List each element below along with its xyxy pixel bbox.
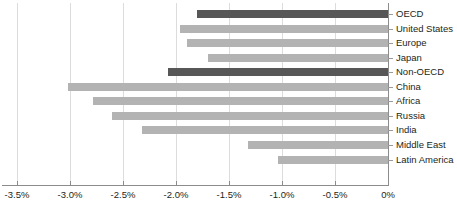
x-axis-tick [176,181,177,186]
x-axis-label: -2.5% [111,189,136,200]
x-axis-tick [70,181,71,186]
x-axis-tick [388,181,389,186]
x-axis-tick [123,181,124,186]
category-label: India [396,125,417,135]
category-tick [388,43,393,44]
category-tick [388,101,393,102]
gridline [123,3,124,185]
category-label: Europe [396,38,427,48]
category-label: China [396,82,421,92]
x-axis-label: -3.5% [5,189,30,200]
category-label: Africa [396,96,420,106]
category-tick [388,116,393,117]
x-axis-label: -2.0% [164,189,189,200]
x-axis-tick [282,181,283,186]
category-label: Latin America [396,155,454,165]
category-label: Japan [396,53,422,63]
bar [197,10,388,18]
gridline [17,3,18,185]
x-axis-label: -1.0% [270,189,295,200]
bar [68,83,388,91]
gridline [70,3,71,185]
category-tick [388,87,393,88]
bar [142,126,388,134]
category-tick [388,160,393,161]
x-axis-label: -1.5% [217,189,242,200]
category-tick [388,29,393,30]
x-axis-tick [17,181,18,186]
bar [93,97,388,105]
bar [187,39,388,47]
category-tick [388,145,393,146]
category-tick [388,72,393,73]
category-label: Russia [396,111,425,121]
bar [168,68,388,76]
bar [278,156,388,164]
category-tick [388,130,393,131]
category-label: Middle East [396,140,446,150]
x-axis-label: -3.0% [58,189,83,200]
category-label: Non-OECD [396,67,444,77]
bar [112,112,388,120]
bar [208,54,388,62]
bar [180,25,388,33]
bar-chart: OECDUnited StatesEuropeJapanNon-OECDChin… [0,0,457,213]
zero-axis-line [388,3,389,185]
x-axis-label: -0.5% [323,189,348,200]
gridline [176,3,177,185]
x-axis-label: 0% [381,189,395,200]
x-axis-tick [229,181,230,186]
axis-baseline [2,185,388,186]
x-axis-tick [335,181,336,186]
category-tick [388,14,393,15]
bar [248,141,388,149]
category-tick [388,58,393,59]
category-label: OECD [396,9,423,19]
category-label: United States [396,24,453,34]
